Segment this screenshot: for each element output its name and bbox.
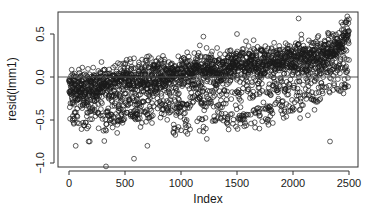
x-axis: 05001000150020002500	[66, 171, 361, 189]
y-axis: −1.0−0.50.00.5	[34, 26, 54, 174]
y-tick-label: 0.5	[34, 26, 46, 41]
y-axis-label: resid(lmm1)	[5, 57, 19, 120]
y-tick-label: −1.0	[34, 152, 46, 174]
x-tick-label: 500	[116, 177, 134, 189]
data-points	[67, 14, 352, 169]
residual-scatter-chart: 05001000150020002500 −1.0−0.50.00.5 Inde…	[0, 0, 371, 212]
x-tick-label: 2000	[281, 177, 305, 189]
x-tick-label: 2500	[337, 177, 361, 189]
x-axis-label: Index	[193, 192, 222, 206]
x-tick-label: 1500	[225, 177, 249, 189]
y-tick-label: 0.0	[34, 69, 46, 84]
y-tick-label: −0.5	[34, 109, 46, 131]
x-tick-label: 1000	[169, 177, 193, 189]
x-tick-label: 0	[66, 177, 72, 189]
